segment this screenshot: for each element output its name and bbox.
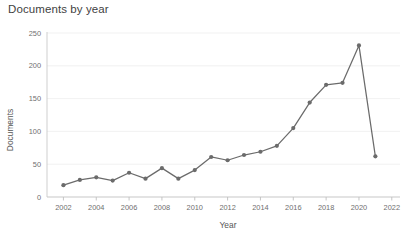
data-point-2012[interactable] [226, 158, 230, 162]
x-tick-label-2020: 2020 [351, 203, 367, 212]
x-tick-label-2022: 2022 [384, 203, 400, 212]
data-series-group [61, 43, 377, 187]
data-point-2008[interactable] [160, 166, 164, 170]
x-tick-label-2012: 2012 [219, 203, 235, 212]
y-axis-group: 050100150200250 [29, 29, 47, 202]
chart-plot-area: 050100150200250 200220042006200820102012… [0, 0, 416, 233]
data-point-2015[interactable] [275, 144, 279, 148]
data-point-2019[interactable] [340, 81, 344, 85]
data-point-2006[interactable] [127, 171, 131, 175]
x-tick-label-2016: 2016 [285, 203, 301, 212]
x-tick-label-2014: 2014 [252, 203, 268, 212]
data-point-2005[interactable] [111, 179, 115, 183]
data-point-2013[interactable] [242, 153, 246, 157]
x-axis-group: 2002200420062008201020122014201620182020… [47, 197, 400, 212]
x-tick-label-2006: 2006 [121, 203, 137, 212]
y-tick-label-50: 50 [33, 160, 41, 169]
data-point-2004[interactable] [94, 175, 98, 179]
data-point-2010[interactable] [193, 168, 197, 172]
y-tick-label-150: 150 [29, 94, 41, 103]
y-tick-label-250: 250 [29, 29, 41, 38]
data-point-2003[interactable] [78, 178, 82, 182]
x-tick-label-2008: 2008 [154, 203, 170, 212]
y-tick-label-0: 0 [37, 193, 41, 202]
x-axis-title: Year [220, 220, 237, 230]
data-point-2014[interactable] [258, 150, 262, 154]
gridlines-group [47, 33, 400, 197]
data-point-2009[interactable] [176, 177, 180, 181]
documents-by-year-chart-widget: Documents by year 050100150200250 200220… [0, 0, 416, 233]
data-point-2017[interactable] [308, 100, 312, 104]
y-tick-label-100: 100 [29, 127, 41, 136]
y-axis-title: Documents [5, 109, 15, 151]
x-tick-label-2004: 2004 [88, 203, 104, 212]
data-point-2016[interactable] [291, 126, 295, 130]
data-point-2002[interactable] [61, 183, 65, 187]
data-point-2020[interactable] [357, 43, 361, 47]
data-point-2018[interactable] [324, 83, 328, 87]
data-point-2021[interactable] [373, 154, 377, 158]
x-tick-label-2018: 2018 [318, 203, 334, 212]
x-tick-label-2010: 2010 [187, 203, 203, 212]
y-tick-label-200: 200 [29, 61, 41, 70]
x-tick-label-2002: 2002 [55, 203, 71, 212]
data-point-2011[interactable] [209, 155, 213, 159]
data-point-2007[interactable] [143, 177, 147, 181]
